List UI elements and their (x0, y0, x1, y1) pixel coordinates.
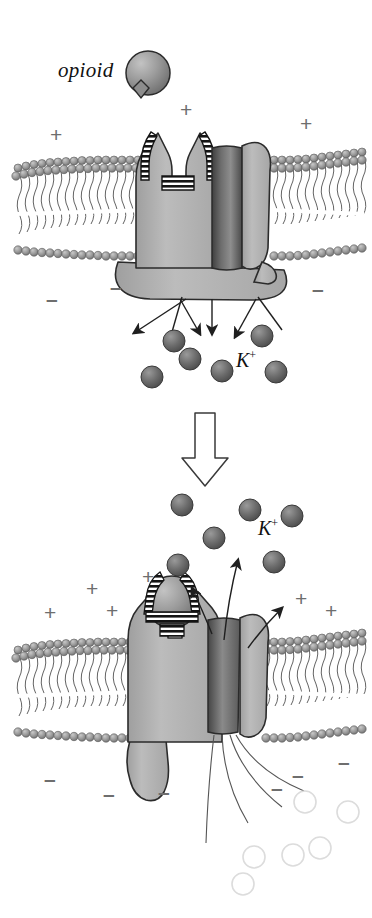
membrane-top-left (12, 156, 150, 260)
membrane-bottom-left (12, 638, 138, 742)
receptor-top-unbound (115, 132, 286, 300)
potassium-charge-top: + (249, 348, 256, 362)
charge-plus-bottom-3: + (106, 600, 118, 621)
charge-minus-bottom-1: – (44, 768, 56, 789)
receptor-bottom-bound (127, 572, 269, 801)
potassium-label-top: K+ (236, 348, 256, 372)
potassium-symbol-bottom: K (258, 517, 271, 539)
binding-pocket-base-top (162, 176, 194, 190)
ions-depleted-outlines (232, 791, 359, 895)
charge-minus-bottom-6: – (338, 751, 350, 772)
charge-minus-top-1: – (46, 288, 58, 309)
potassium-label-bottom: K+ (258, 516, 278, 540)
charge-minus-bottom-4: – (271, 777, 283, 798)
transition-arrow (182, 413, 228, 486)
binding-pocket-base-bottom (160, 624, 184, 636)
opioid-label: opioid (58, 58, 113, 83)
charge-minus-bottom-2: – (103, 783, 115, 804)
membrane-top-right (270, 148, 366, 260)
binding-pocket-mid-bottom (146, 612, 198, 622)
charge-plus-bottom-6: + (325, 600, 337, 621)
charge-minus-top-3: – (312, 278, 324, 299)
potassium-symbol-top: K (236, 349, 249, 371)
ions-extracellular-bottom (167, 494, 303, 576)
channel-subunit-right-bottom (240, 614, 269, 737)
charge-plus-bottom-5: + (295, 588, 307, 609)
figure-canvas: opioid K+ K+ + + + – – – + + + + + + – –… (0, 0, 372, 918)
opioid-ligand-free (126, 51, 170, 98)
potassium-channel-closed (212, 146, 242, 270)
charge-minus-bottom-5: – (292, 764, 304, 785)
charge-minus-bottom-3: – (158, 781, 170, 802)
membrane-bottom-right (262, 629, 366, 742)
charge-plus-bottom-2: + (86, 578, 98, 599)
charge-plus-top-2: + (180, 99, 192, 120)
channel-subunit-right-top (242, 142, 271, 269)
charge-minus-top-2: – (110, 276, 122, 297)
charge-plus-top-1: + (50, 124, 62, 145)
potassium-charge-bottom: + (271, 516, 278, 530)
charge-plus-top-3: + (300, 113, 312, 134)
ions-intracellular-top (141, 325, 287, 388)
charge-plus-bottom-1: + (44, 602, 56, 623)
ion-trace-lines (206, 735, 304, 843)
charge-plus-bottom-4: + (142, 566, 154, 587)
